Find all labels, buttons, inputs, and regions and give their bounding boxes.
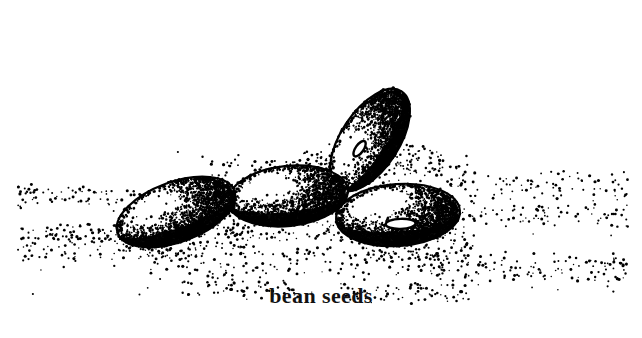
figure-caption: bean seeds bbox=[0, 283, 642, 309]
bean-seeds-figure: bean seeds bbox=[0, 0, 642, 338]
bean-seed-lower-right-hilum bbox=[385, 218, 415, 229]
